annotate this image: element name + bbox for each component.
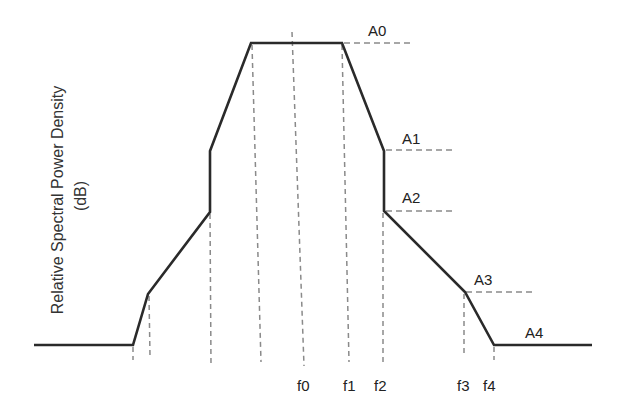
label-f1: f1 xyxy=(343,377,356,394)
ref-line-neg-f2 xyxy=(210,214,211,365)
vertical-reference-lines xyxy=(133,32,494,366)
y-axis-label-line1: Relative Spectral Power Density xyxy=(49,86,66,315)
y-axis-label-line2: (dB) xyxy=(72,181,89,211)
label-f4: f4 xyxy=(483,377,496,394)
ref-line-f1 xyxy=(342,45,349,362)
y-axis-label: Relative Spectral Power Density (dB) xyxy=(49,86,89,315)
label-A0: A0 xyxy=(368,22,386,39)
amplitude-reference-lines xyxy=(344,43,532,292)
ref-line-neg-f3 xyxy=(149,296,150,356)
label-f3: f3 xyxy=(457,377,470,394)
label-f0: f0 xyxy=(297,377,310,394)
label-A4: A4 xyxy=(525,324,543,341)
label-f2: f2 xyxy=(374,377,387,394)
label-A1: A1 xyxy=(402,130,420,147)
spectral-mask-diagram: Relative Spectral Power Density (dB) A0 … xyxy=(0,0,619,412)
ref-line-f0 xyxy=(292,32,304,366)
label-A2: A2 xyxy=(402,189,420,206)
label-A3: A3 xyxy=(474,271,492,288)
ref-line-neg-f1 xyxy=(252,45,261,362)
spectral-mask-line xyxy=(34,43,592,345)
